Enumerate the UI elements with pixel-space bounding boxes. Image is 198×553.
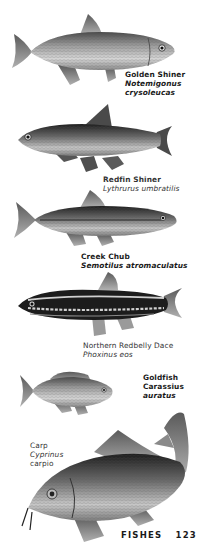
redfin-shiner-illustration xyxy=(12,98,182,178)
section-title: FISHES xyxy=(121,530,162,540)
common-name: Northern Redbelly Dace xyxy=(83,341,173,350)
common-name: Golden Shiner xyxy=(125,70,185,79)
carp-caption: Carp Cyprinus carpio xyxy=(30,441,63,468)
common-name: Carp xyxy=(30,441,63,450)
northern-redbelly-dace-illustration xyxy=(14,270,184,342)
creek-chub-caption: Creek Chub Semotilus atromaculatus xyxy=(81,252,188,270)
page-number: 123 xyxy=(176,530,197,540)
scientific-name: Phoxinus eos xyxy=(83,350,173,359)
scientific-name: Carassius xyxy=(143,382,184,391)
common-name: Redfin Shiner xyxy=(103,175,180,184)
scientific-name: Semotilus atromaculatus xyxy=(81,261,188,270)
scientific-name: carpio xyxy=(30,459,63,468)
scientific-name: Cyprinus xyxy=(30,450,63,459)
goldfish-caption: Goldfish Carassius auratus xyxy=(143,373,184,400)
common-name: Goldfish xyxy=(143,373,184,382)
creek-chub-illustration xyxy=(12,188,182,253)
scientific-name: crysoleucas xyxy=(125,88,185,97)
scientific-name: Notemigonus xyxy=(125,79,185,88)
northern-redbelly-dace-caption: Northern Redbelly Dace Phoxinus eos xyxy=(83,341,173,359)
golden-shiner-caption: Golden Shiner Notemigonus crysoleucas xyxy=(125,70,185,97)
scientific-name: auratus xyxy=(143,391,184,400)
page-footer: FISHES 123 xyxy=(121,530,197,540)
common-name: Creek Chub xyxy=(81,252,188,261)
